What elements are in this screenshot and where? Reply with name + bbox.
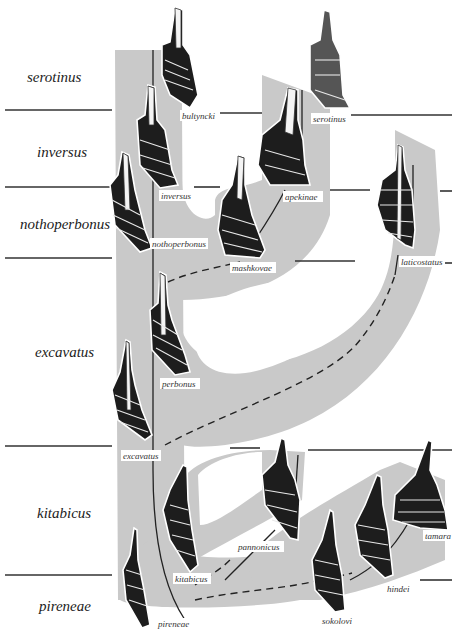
zone-label-pireneae: pireneae [38, 598, 91, 614]
zone-label-inversus: inversus [37, 144, 87, 160]
taxon-label-nothoperbonus: nothoperbonus [152, 239, 206, 249]
zone-labels: serotinus inversus nothoperbonus excavat… [20, 69, 110, 614]
taxon-label-inversus: inversus [161, 191, 191, 201]
zone-label-excavatus: excavatus [35, 344, 94, 360]
taxon-label-mashkovae: mashkovae [232, 263, 272, 273]
zone-label-kitabicus: kitabicus [37, 505, 91, 521]
taxon-label-excavatus: excavatus [123, 451, 159, 461]
taxon-label-tamara: tamara [425, 531, 452, 541]
zone-label-serotinus: serotinus [27, 69, 82, 85]
taxon-label-laticostatus: laticostatus [401, 257, 443, 267]
taxon-label-pireneae: pireneae [157, 619, 189, 629]
phylogeny-diagram: serotinus inversus nothoperbonus excavat… [0, 0, 459, 642]
taxon-label-sokolovi: sokolovi [322, 616, 352, 626]
taxon-label-hindei: hindei [387, 584, 410, 594]
zone-label-nothoperbonus: nothoperbonus [20, 216, 110, 232]
taxon-label-perbonus: perbonus [161, 379, 196, 389]
taxon-label-kitabicus: kitabicus [175, 574, 208, 584]
taxon-label-serotinus: serotinus [313, 114, 346, 124]
taxon-label-apekinae: apekinae [285, 192, 317, 202]
taxon-label-bultyncki: bultyncki [182, 111, 215, 121]
serotinus-element-icon [310, 10, 350, 108]
taxon-label-pannonicus: pannonicus [237, 542, 280, 552]
